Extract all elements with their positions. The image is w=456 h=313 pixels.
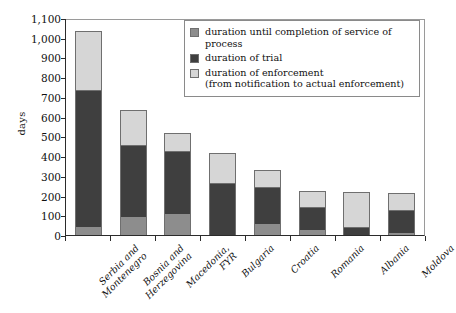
y-axis-tick-label: 900 [9,52,61,64]
bar-segment-service [300,230,325,235]
bar-segment-enforce [389,194,414,211]
y-axis-tick-label: 1,100 [9,13,61,25]
stacked-bar[interactable] [388,193,415,235]
bar-segment-service [121,217,146,235]
x-label-slot: Romania [290,241,335,313]
bar-segment-enforce [165,134,190,152]
bar-slot [66,19,111,235]
legend-item[interactable]: duration until completion of service of … [190,26,413,49]
bar-segment-trial [165,152,190,214]
x-axis-label: Moldova [383,243,455,313]
legend-label: duration of trial [205,52,282,64]
bar-slot [111,19,156,235]
x-axis-tick-mark [245,236,246,241]
x-label-slot: Albania [335,241,380,313]
x-axis-tick-mark [380,236,381,241]
bar-segment-enforce [76,32,101,91]
legend-swatch-enforce [190,69,199,78]
y-axis-tick-label: 1,000 [9,33,61,45]
bar-segment-trial [121,146,146,217]
bar-segment-service [255,224,280,235]
x-label-slot: Macedonia, FYR [155,241,200,313]
bar-segment-enforce [300,192,325,209]
bar-segment-trial [344,228,369,235]
bar-segment-trial [76,91,101,227]
stacked-bar[interactable] [164,133,191,235]
stacked-bar[interactable] [209,153,236,235]
x-label-slot: Croatia [245,241,290,313]
x-axis-tick-mark [425,236,426,241]
bar-segment-service [76,227,101,235]
legend-label: duration until completion of service of … [205,26,413,49]
bar-segment-trial [255,188,280,224]
bar-segment-trial [210,184,235,235]
stacked-bar[interactable] [75,31,102,235]
y-axis-tick-label: 300 [9,171,61,183]
stacked-bar[interactable] [343,192,370,235]
y-axis-tick-label: 700 [9,92,61,104]
bar-segment-service [389,233,414,235]
stacked-bar[interactable] [120,110,147,235]
x-axis-labels: Serbia and MontenegroBosnia and Herzegov… [65,241,425,313]
legend-swatch-trial [190,54,199,63]
x-axis-tick-mark [200,236,201,241]
legend-item[interactable]: duration of trial [190,52,413,64]
y-axis-tick-labels: 1,1001,0009008007006005004003002001000 [0,0,61,313]
y-axis-tick-label: 400 [9,151,61,163]
stacked-bar[interactable] [254,170,281,235]
x-label-slot: Bosnia and Herzegovina [110,241,155,313]
x-axis-tick-mark [290,236,291,241]
y-axis-tick-label: 0 [9,230,61,242]
legend-label: duration of enforcement(from notificatio… [205,67,404,90]
legend-sublabel: (from notification to actual enforcement… [205,78,404,90]
y-axis-tick-label: 600 [9,112,61,124]
legend-item[interactable]: duration of enforcement(from notificatio… [190,67,413,90]
y-axis-tick-label: 500 [9,131,61,143]
chart-legend: duration until completion of service of … [184,20,420,97]
bar-segment-enforce [255,171,280,188]
bar-segment-enforce [344,193,369,229]
stacked-bar[interactable] [299,191,326,235]
x-label-slot: Moldova [380,241,425,313]
x-label-slot: Bulgaria [200,241,245,313]
bar-segment-enforce [210,154,235,184]
x-axis-tick-mark [110,236,111,241]
y-axis-tick-label: 100 [9,210,61,222]
bar-segment-trial [389,211,414,233]
bar-segment-trial [300,208,325,230]
bar-segment-service [165,214,190,235]
y-axis-tick-label: 200 [9,191,61,203]
x-label-slot: Serbia and Montenegro [65,241,110,313]
legend-swatch-service [190,28,199,37]
bar-segment-enforce [121,111,146,147]
y-axis-tick-label: 800 [9,72,61,84]
x-axis-tick-mark [65,236,66,241]
x-axis-tick-mark [335,236,336,241]
x-axis-tick-mark [155,236,156,241]
